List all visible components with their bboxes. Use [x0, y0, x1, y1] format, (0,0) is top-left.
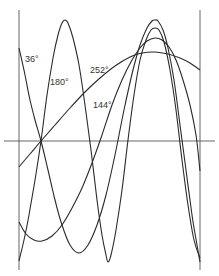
label-180-degrees: 180° — [50, 77, 69, 87]
label-252-degrees: 252° — [90, 65, 109, 75]
label-144-degrees: 144° — [93, 100, 112, 110]
label-36-degrees: 36° — [25, 54, 39, 64]
phase-waveform-diagram: 36° 180° 144° 252° — [0, 0, 219, 276]
waveform-144-degrees — [19, 38, 200, 241]
